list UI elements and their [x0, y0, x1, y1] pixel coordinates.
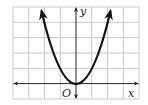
x-axis-label: x [128, 87, 135, 100]
y-axis-label: y [79, 5, 87, 18]
origin-label: O [62, 87, 71, 100]
parabola-graph: y x O [0, 0, 148, 105]
